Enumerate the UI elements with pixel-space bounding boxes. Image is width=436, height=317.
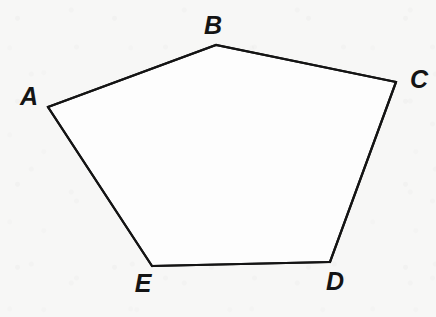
pentagon-shape bbox=[48, 45, 396, 266]
vertex-label-d: D bbox=[326, 269, 344, 294]
pentagon-drawing-canvas bbox=[0, 0, 436, 317]
vertex-label-b: B bbox=[204, 13, 222, 38]
vertex-label-c: C bbox=[410, 67, 428, 92]
geometry-figure: A B C D E bbox=[0, 0, 436, 317]
vertex-label-e: E bbox=[135, 271, 152, 296]
vertex-label-a: A bbox=[20, 84, 38, 109]
